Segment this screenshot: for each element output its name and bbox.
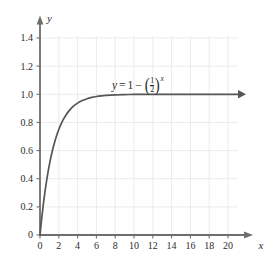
x-axis-tick-labels: 0 2 4 6 8 10 12 14 16 18 20 [38, 240, 234, 251]
y-tick-label: 1.4 [21, 32, 34, 43]
y-tick-label: 0 [28, 229, 33, 240]
equation-paren-open: ( [145, 75, 150, 94]
equation-minus: − [133, 79, 144, 91]
fraction-numerator: 1 [150, 77, 154, 85]
y-tick-label: 1.2 [21, 61, 34, 72]
equation-annotation: y=1−(12)x [112, 73, 164, 95]
grid-horizontal [40, 38, 238, 207]
y-axis [37, 16, 44, 236]
x-tick-label: 14 [167, 240, 177, 251]
y-tick-label: 0.8 [21, 117, 34, 128]
x-tick-label: 20 [223, 240, 233, 251]
x-tick-label: 2 [56, 240, 61, 251]
x-tick-label: 16 [185, 240, 195, 251]
exponential-curve [40, 94, 238, 235]
y-tick-label: 1.0 [21, 89, 34, 100]
figure-container: 0 0.2 0.4 0.6 0.8 1.0 1.2 1.4 0 2 4 6 8 … [0, 0, 275, 264]
equation-equals: = [117, 79, 128, 91]
y-axis-tick-labels: 0 0.2 0.4 0.6 0.8 1.0 1.2 1.4 [21, 32, 34, 240]
x-tick-label: 4 [75, 240, 80, 251]
equation-fraction: 12 [150, 77, 154, 95]
equation-exponent: x [161, 74, 164, 83]
x-tick-label: 10 [129, 240, 139, 251]
x-axis [40, 232, 253, 239]
function-plot: 0 0.2 0.4 0.6 0.8 1.0 1.2 1.4 0 2 4 6 8 … [0, 0, 275, 264]
x-tick-label: 6 [94, 240, 99, 251]
y-tick-label: 0.2 [21, 201, 34, 212]
x-tick-label: 18 [204, 240, 214, 251]
x-tick-label: 12 [148, 240, 158, 251]
y-tick-label: 0.6 [21, 145, 34, 156]
x-tick-label: 0 [38, 240, 43, 251]
y-tick-label: 0.4 [21, 173, 34, 184]
equation-paren-close: ) [155, 75, 160, 94]
x-tick-label: 8 [113, 240, 118, 251]
x-axis-name: x [258, 239, 264, 251]
fraction-denominator: 2 [150, 85, 154, 94]
curve-arrowhead [238, 90, 246, 99]
y-axis-name: y [46, 12, 52, 24]
